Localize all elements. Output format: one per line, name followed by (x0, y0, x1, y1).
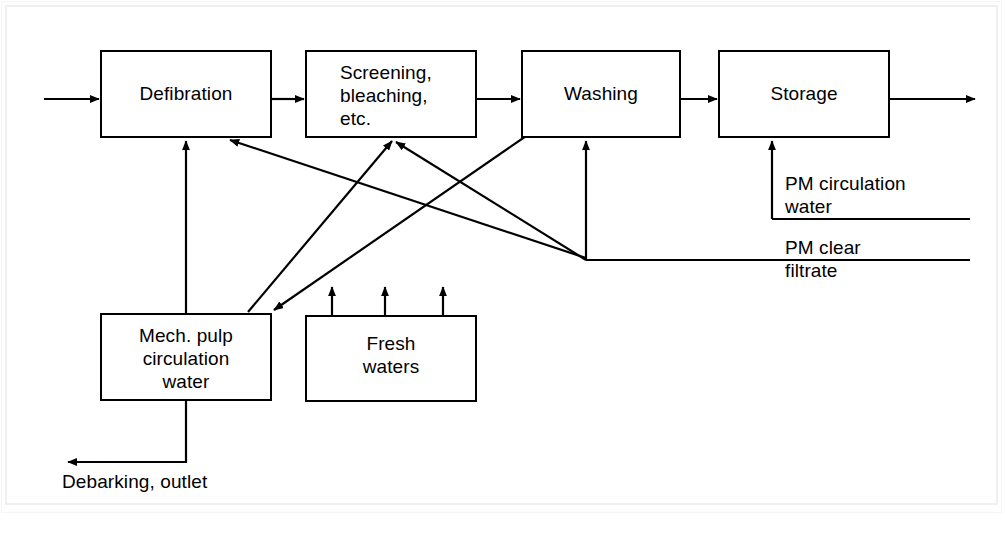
node-screening-label: Screening, bleaching, etc. (336, 61, 436, 131)
node-screening[interactable]: Screening, bleaching, etc. (305, 50, 477, 138)
node-washing-label: Washing (560, 82, 642, 105)
node-storage[interactable]: Storage (718, 50, 890, 138)
node-defibration[interactable]: Defibration (100, 50, 272, 138)
node-washing[interactable]: Washing (521, 50, 681, 138)
node-storage-label: Storage (766, 82, 841, 105)
node-defibration-label: Defibration (136, 82, 237, 105)
label-pm-clear-filtrate: PM clear filtrate (785, 236, 861, 282)
node-mech-pulp-circulation-water-label: Mech. pulp circulation water (135, 324, 237, 394)
node-fresh-waters-label: Fresh waters (359, 332, 424, 378)
connector-washing-to-mechpulp (274, 134, 529, 310)
node-mech-pulp-circulation-water[interactable]: Mech. pulp circulation water (100, 313, 272, 401)
connector-mechpulp-to-screening (248, 141, 392, 312)
label-pm-circulation-water: PM circulation water (785, 172, 906, 218)
label-debarking-outlet: Debarking, outlet (62, 470, 207, 493)
figure-canvas: Defibration Screening, bleaching, etc. W… (0, 0, 1005, 542)
connector-mechpulp-to-debarking (68, 401, 186, 462)
connector-pmclear-to-defibration (230, 140, 586, 258)
node-fresh-waters[interactable]: Fresh waters (305, 315, 477, 402)
